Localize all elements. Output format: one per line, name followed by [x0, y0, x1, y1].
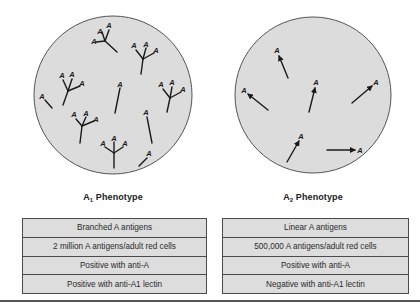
property-row: Positive with anti-A: [223, 256, 408, 275]
svg-text:A: A: [110, 134, 116, 143]
svg-text:A: A: [372, 78, 378, 87]
svg-text:A: A: [70, 110, 76, 119]
label-rest: Phenotype: [93, 192, 143, 202]
property-row: 500,000 A antigens/adult red cells: [223, 237, 408, 256]
svg-text:A: A: [297, 132, 303, 141]
property-row: Branched A antigens: [23, 219, 206, 237]
property-row: 2 million A antigens/adult red cells: [23, 237, 206, 256]
svg-text:A: A: [157, 80, 163, 89]
svg-text:A: A: [105, 21, 111, 30]
svg-text:A: A: [240, 86, 246, 95]
svg-text:A: A: [68, 70, 74, 79]
property-row: Linear A antigens: [223, 219, 408, 237]
bottom-divider: [0, 300, 420, 302]
svg-text:A: A: [116, 80, 122, 89]
a1-properties-table: Branched A antigens 2 million A antigens…: [22, 218, 207, 294]
svg-text:A: A: [96, 27, 102, 36]
svg-text:A: A: [142, 40, 148, 49]
a2-red-cell: A A A A A A: [235, 17, 391, 173]
label-rest: Phenotype: [293, 192, 343, 202]
a2-phenotype-label: A2 Phenotype: [223, 192, 403, 202]
svg-text:A: A: [152, 46, 158, 55]
svg-text:A: A: [130, 41, 136, 50]
svg-text:A: A: [38, 92, 44, 101]
svg-text:A: A: [142, 108, 148, 117]
property-row: Negative with anti-A1 lectin: [223, 274, 408, 293]
label-main: A: [83, 192, 90, 202]
svg-text:A: A: [58, 71, 64, 80]
phenotype-diagram: A A A A A A A A A A A A A A A A A A A A …: [0, 0, 420, 200]
label-main: A: [283, 192, 290, 202]
svg-text:A: A: [145, 149, 151, 158]
svg-text:A: A: [273, 46, 279, 55]
svg-text:A: A: [90, 37, 96, 46]
a1-red-cell: A A A A A A A A A A A A A A A A A A A A …: [34, 16, 192, 174]
svg-text:A: A: [312, 78, 318, 87]
property-row: Positive with anti-A1 lectin: [23, 274, 206, 293]
a1-phenotype-label: A1 Phenotype: [23, 192, 203, 202]
svg-text:A: A: [356, 146, 362, 155]
svg-text:A: A: [92, 115, 98, 124]
a2-properties-table: Linear A antigens 500,000 A antigens/adu…: [222, 218, 409, 294]
svg-text:A: A: [99, 139, 105, 148]
svg-text:A: A: [168, 78, 174, 87]
svg-text:A: A: [121, 139, 127, 148]
svg-text:A: A: [78, 79, 84, 88]
property-row: Positive with anti-A: [23, 256, 206, 275]
svg-text:A: A: [82, 109, 88, 118]
svg-text:A: A: [179, 85, 185, 94]
